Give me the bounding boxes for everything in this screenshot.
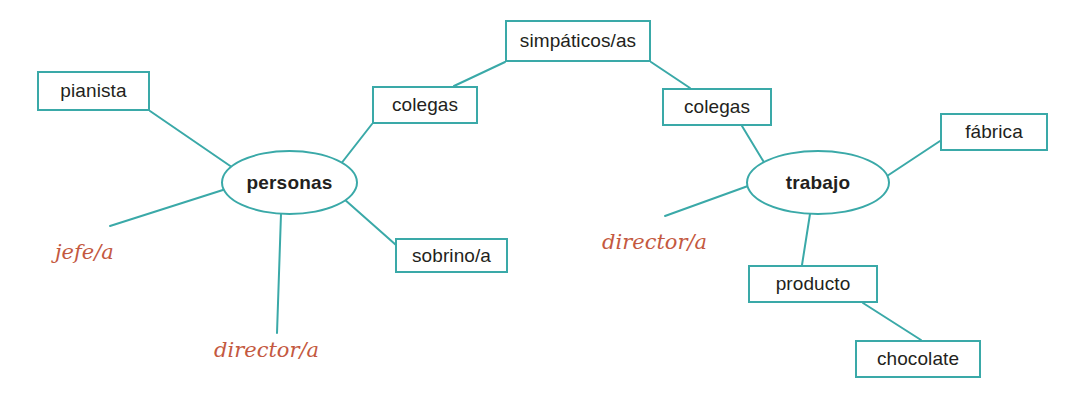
edge-simpaticos-to-colegas-right <box>651 62 690 88</box>
node-colegas-right[interactable]: colegas <box>662 88 772 126</box>
edge-fabrica-to-trabajo <box>881 141 940 180</box>
edge-colegas-left-to-personas <box>340 124 372 165</box>
node-jefe[interactable]: jefe/a <box>55 238 137 266</box>
node-director-right[interactable]: director/a <box>602 228 722 256</box>
edge-personas-to-jefe <box>110 189 226 226</box>
node-fabrica[interactable]: fábrica <box>940 113 1048 151</box>
node-label: simpáticos/as <box>520 30 636 52</box>
node-label: colegas <box>392 94 458 116</box>
edge-trabajo-to-director-right <box>665 186 748 216</box>
edge-producto-to-chocolate <box>863 303 921 340</box>
mindmap-canvas: simpáticos/aspianistacolegascolegasfábri… <box>0 0 1072 404</box>
edge-pianista-to-personas <box>150 111 239 172</box>
node-label: personas <box>246 172 332 194</box>
node-label: director/a <box>214 338 319 362</box>
node-label: chocolate <box>877 348 959 370</box>
node-pianista[interactable]: pianista <box>37 71 150 111</box>
node-trabajo[interactable]: trabajo <box>746 150 890 215</box>
edge-trabajo-to-producto <box>802 214 810 265</box>
node-label: jefe/a <box>55 240 114 264</box>
node-label: fábrica <box>965 121 1023 143</box>
edge-simpaticos-to-colegas-left <box>454 62 505 86</box>
edge-personas-to-sobrino <box>344 199 396 245</box>
node-label: director/a <box>602 230 707 254</box>
node-director-left[interactable]: director/a <box>214 336 334 364</box>
node-label: sobrino/a <box>412 245 491 267</box>
node-label: trabajo <box>786 172 851 194</box>
node-label: colegas <box>684 96 750 118</box>
node-sobrino[interactable]: sobrino/a <box>395 238 508 273</box>
node-personas[interactable]: personas <box>221 150 358 215</box>
node-simpaticos[interactable]: simpáticos/as <box>505 20 651 62</box>
edge-colegas-right-to-trabajo <box>742 126 765 164</box>
node-label: pianista <box>60 80 126 102</box>
node-chocolate[interactable]: chocolate <box>855 340 981 378</box>
node-colegas-left[interactable]: colegas <box>372 86 478 124</box>
node-producto[interactable]: producto <box>748 265 878 303</box>
edge-personas-to-director-left <box>277 214 281 333</box>
node-label: producto <box>776 273 851 295</box>
